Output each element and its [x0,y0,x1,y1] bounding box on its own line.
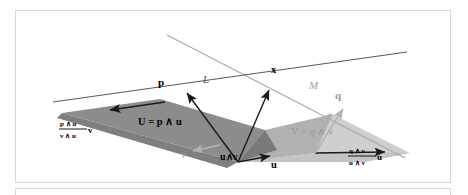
label-point-x: x [271,64,277,75]
geometry-svg: p L x M q U = p ∧ u V = q ∧ v u∧v u v p … [15,10,451,183]
label-vector-p: p [158,76,164,88]
label-plane-V: V = q ∧ v [291,126,334,137]
diagram-canvas: p L x M q U = p ∧ u V = q ∧ v u∧v u v p … [15,10,451,183]
left-fraction-multiplier: v [88,125,93,135]
label-apex-meet: u∧v [220,151,238,162]
line-L [53,52,407,102]
label-vector-v: v [181,150,186,160]
right-fraction-numerator: q ∧ v [349,147,365,155]
label-line-M: M [308,79,319,91]
second-figure-frame [15,188,451,195]
label-line-L: L [202,73,209,85]
left-fraction-numerator: p ∧ u [60,120,76,128]
left-fraction-denominator: v ∧ u [60,132,76,140]
figure-stage: p L x M q U = p ∧ u V = q ∧ v u∧v u v p … [0,0,468,195]
label-vector-u: u [271,159,277,170]
label-vector-q: q [335,89,342,101]
label-plane-U: U = p ∧ u [138,116,182,127]
right-fraction-denominator: u ∧ v [349,159,365,167]
right-fraction-multiplier: u [377,152,382,162]
